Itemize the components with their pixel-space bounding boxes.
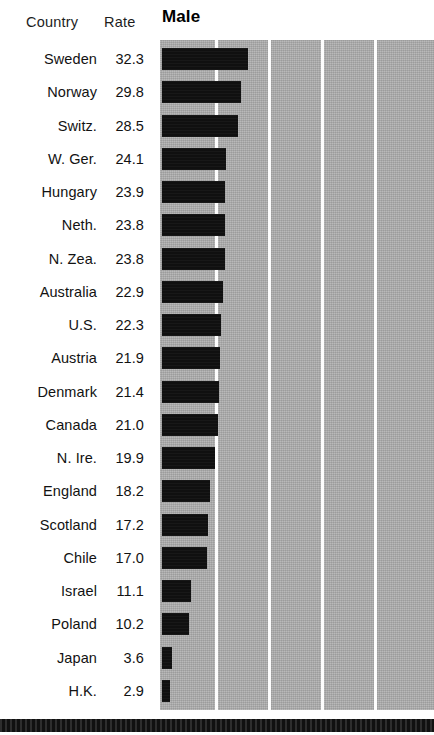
rate-value: 11.1 — [99, 580, 144, 602]
country-label: England — [0, 480, 97, 502]
country-label: Sweden — [0, 48, 97, 70]
table-row: Japan3.6 — [0, 647, 146, 669]
country-label: Canada — [0, 414, 97, 436]
table-row: Austria21.9 — [0, 347, 146, 369]
country-label: N. Ire. — [0, 447, 97, 469]
column-header-rate: Rate — [104, 11, 135, 33]
rate-value: 19.9 — [99, 447, 144, 469]
rate-value: 2.9 — [99, 680, 144, 702]
rate-value: 29.8 — [99, 81, 144, 103]
rate-value: 21.4 — [99, 381, 144, 403]
country-label: Switz. — [0, 115, 97, 137]
table-row: W. Ger.24.1 — [0, 148, 146, 170]
country-label: Austria — [0, 347, 97, 369]
bar — [162, 48, 248, 70]
country-label: Neth. — [0, 214, 97, 236]
table-row: Switz.28.5 — [0, 115, 146, 137]
bar — [162, 181, 225, 203]
bar — [162, 580, 191, 602]
rate-value: 21.9 — [99, 347, 144, 369]
bar — [162, 115, 238, 137]
table-row: Poland10.2 — [0, 613, 146, 635]
rate-value: 17.2 — [99, 514, 144, 536]
bar — [162, 514, 208, 536]
rate-value: 23.8 — [99, 248, 144, 270]
rate-value: 23.9 — [99, 181, 144, 203]
bar — [162, 414, 218, 436]
rate-value: 22.3 — [99, 314, 144, 336]
country-label: Norway — [0, 81, 97, 103]
rate-value: 21.0 — [99, 414, 144, 436]
table-row: Australia22.9 — [0, 281, 146, 303]
country-label: Hungary — [0, 181, 97, 203]
country-label: N. Zea. — [0, 248, 97, 270]
bar — [162, 381, 219, 403]
bar — [162, 248, 225, 270]
country-label: Israel — [0, 580, 97, 602]
chart-figure: Country Rate Sweden32.3Norway29.8Switz.2… — [0, 0, 434, 735]
table-row: Canada21.0 — [0, 414, 146, 436]
plot-area — [160, 40, 434, 710]
bar — [162, 347, 220, 369]
country-label: W. Ger. — [0, 148, 97, 170]
bar — [162, 680, 170, 702]
rate-value: 22.9 — [99, 281, 144, 303]
table-row: England18.2 — [0, 480, 146, 502]
gridline — [321, 40, 324, 710]
chart-title: Male — [162, 6, 200, 28]
bar — [162, 314, 221, 336]
table-row: H.K.2.9 — [0, 680, 146, 702]
country-label: Poland — [0, 613, 97, 635]
table-row: Scotland17.2 — [0, 514, 146, 536]
bar — [162, 613, 189, 635]
table-row: N. Ire.19.9 — [0, 447, 146, 469]
country-label: H.K. — [0, 680, 97, 702]
country-label: Australia — [0, 281, 97, 303]
rate-value: 17.0 — [99, 547, 144, 569]
table-row: U.S.22.3 — [0, 314, 146, 336]
bar — [162, 647, 172, 669]
bar — [162, 547, 207, 569]
rate-value: 10.2 — [99, 613, 144, 635]
table-row: Norway29.8 — [0, 81, 146, 103]
country-label: Scotland — [0, 514, 97, 536]
country-label: Japan — [0, 647, 97, 669]
bar — [162, 447, 215, 469]
bar — [162, 81, 241, 103]
rate-value: 3.6 — [99, 647, 144, 669]
bar — [162, 148, 226, 170]
bar — [162, 281, 223, 303]
country-label: Chile — [0, 547, 97, 569]
country-label: U.S. — [0, 314, 97, 336]
bar — [162, 214, 225, 236]
column-header-country: Country — [26, 11, 78, 33]
rate-value: 18.2 — [99, 480, 144, 502]
table-header-row: Country Rate — [0, 11, 146, 33]
rate-value: 24.1 — [99, 148, 144, 170]
table-row: Sweden32.3 — [0, 48, 146, 70]
gridline — [215, 40, 218, 710]
rate-value: 28.5 — [99, 115, 144, 137]
table-row: Israel11.1 — [0, 580, 146, 602]
rate-value: 32.3 — [99, 48, 144, 70]
bar — [162, 480, 210, 502]
country-label: Denmark — [0, 381, 97, 403]
gridline — [268, 40, 271, 710]
table-row: Hungary23.9 — [0, 181, 146, 203]
table-row: Chile17.0 — [0, 547, 146, 569]
table-row: Neth.23.8 — [0, 214, 146, 236]
bottom-divider — [0, 719, 434, 732]
gridline — [374, 40, 377, 710]
table-row: Denmark21.4 — [0, 381, 146, 403]
table-row: N. Zea.23.8 — [0, 248, 146, 270]
country-rate-table: Country Rate Sweden32.3Norway29.8Switz.2… — [0, 0, 150, 735]
rate-value: 23.8 — [99, 214, 144, 236]
